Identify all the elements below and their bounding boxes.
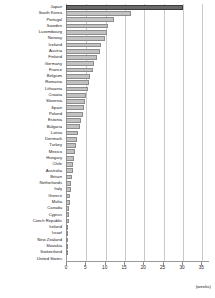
- bar: [66, 87, 88, 92]
- bar: [66, 17, 114, 22]
- category-label: Chile: [52, 162, 62, 166]
- bar-row: [66, 36, 209, 41]
- category-label: Mexico: [49, 150, 62, 154]
- plot-area: [66, 4, 209, 262]
- bar-row: [66, 124, 209, 129]
- category-label: United States: [37, 257, 62, 261]
- bar: [66, 74, 90, 79]
- category-label: Italy: [54, 187, 62, 191]
- category-label: Ireland: [49, 225, 62, 229]
- bar-row: [66, 131, 209, 136]
- category-label: Bulgaria: [47, 125, 62, 129]
- bar: [66, 219, 69, 224]
- bar: [66, 43, 101, 48]
- category-label: Finland: [48, 55, 62, 59]
- bar-row: [66, 256, 209, 261]
- category-label: Portugal: [46, 18, 62, 22]
- category-label: Slovenia: [46, 99, 62, 103]
- category-label: Slovakia: [46, 244, 62, 248]
- bar-row: [66, 212, 209, 217]
- bar-row: [66, 143, 209, 148]
- category-label: Cyprus: [49, 213, 62, 217]
- bar: [66, 131, 78, 136]
- bar: [66, 93, 86, 98]
- category-label: Switzerland: [40, 250, 62, 254]
- category-label: Lithuania: [45, 87, 62, 91]
- bar-row: [66, 74, 209, 79]
- category-label: Japan: [51, 5, 62, 9]
- bar-row: [66, 99, 209, 104]
- category-label: South Korea: [39, 11, 62, 15]
- category-label: Netherlands: [39, 181, 62, 185]
- bar: [66, 149, 75, 154]
- category-label: Canada: [47, 206, 62, 210]
- x-tick-label: 25: [160, 266, 165, 271]
- category-label: Spain: [51, 106, 62, 110]
- category-label: Turkey: [49, 143, 62, 147]
- bar-row: [66, 137, 209, 142]
- bar-row: [66, 55, 209, 60]
- bar-row: [66, 105, 209, 110]
- category-label: New Zealand: [37, 238, 62, 242]
- bar-row: [66, 181, 209, 186]
- category-label: Germany: [45, 62, 62, 66]
- bar-row: [66, 250, 209, 255]
- x-tick-label: 20: [141, 266, 146, 271]
- x-axis-unit-label: (weeks): [196, 285, 211, 289]
- x-tick-label: 0: [65, 266, 68, 271]
- bar: [66, 206, 69, 211]
- x-tick-label: 15: [121, 266, 126, 271]
- bar-row: [66, 87, 209, 92]
- category-axis-labels: JapanSouth KoreaPortugalSwedenLuxembourg…: [0, 4, 64, 262]
- x-tick-label: 35: [199, 266, 204, 271]
- bar-row: [66, 175, 209, 180]
- bar: [66, 30, 107, 35]
- category-label: Austria: [49, 49, 62, 53]
- bar: [66, 156, 74, 161]
- bar: [66, 105, 84, 110]
- category-label: Greece: [48, 194, 62, 198]
- category-label: Malta: [52, 200, 62, 204]
- bar: [66, 238, 68, 243]
- bar: [66, 118, 81, 123]
- category-label: Romania: [45, 80, 62, 84]
- bar: [66, 112, 83, 117]
- bar-row: [66, 156, 209, 161]
- bar: [66, 24, 108, 29]
- bar-row: [66, 93, 209, 98]
- bar-row: [66, 24, 209, 29]
- bar: [66, 225, 68, 230]
- bar: [66, 11, 131, 16]
- bar-row: [66, 206, 209, 211]
- category-label: Belgium: [47, 74, 62, 78]
- bar-row: [66, 118, 209, 123]
- category-label: Iceland: [48, 43, 62, 47]
- bar: [66, 61, 94, 66]
- bar-row: [66, 61, 209, 66]
- bar: [66, 250, 68, 255]
- bar-rows: [66, 4, 209, 262]
- x-axis-ticks: 05101520253035: [66, 262, 209, 276]
- bar-row: [66, 11, 209, 16]
- bar: [66, 194, 70, 199]
- bar: [66, 55, 97, 60]
- category-label: Australia: [46, 169, 62, 173]
- category-label: Latvia: [51, 131, 62, 135]
- bar: [66, 68, 93, 73]
- category-label: Britain: [50, 175, 62, 179]
- bar: [66, 49, 100, 54]
- category-label: Poland: [49, 112, 62, 116]
- bar: [66, 200, 70, 205]
- bar: [66, 212, 69, 217]
- bar-row: [66, 43, 209, 48]
- bar: [66, 137, 77, 142]
- bar-row: [66, 219, 209, 224]
- x-tick-label: 30: [179, 266, 184, 271]
- bar-row: [66, 238, 209, 243]
- category-label: Sweden: [47, 24, 62, 28]
- x-tick-label: 5: [84, 266, 87, 271]
- bar: [66, 187, 71, 192]
- category-label: Denmark: [45, 137, 62, 141]
- bar: [66, 36, 105, 41]
- bar-row: [66, 168, 209, 173]
